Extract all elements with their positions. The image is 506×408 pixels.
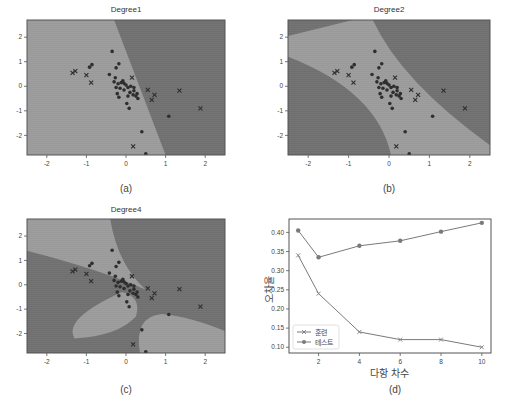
y-axis-label: 오차율 [261,270,276,310]
caption: (d) [375,384,415,395]
x-tick-label: 6 [398,358,402,365]
y-tick-label: 0.10 [271,343,284,350]
x-tick-label: 2 [317,358,321,365]
y-tick-label: 0.40 [271,229,284,236]
legend-label: 테스트 [315,339,334,347]
y-tick-label: 0.35 [271,248,284,255]
x-tick-label: 4 [358,358,362,365]
legend: 훈련테스트 [293,325,339,349]
y-tick-label: 0.15 [271,324,284,331]
x-axis-label: 다항 차수 [370,365,409,380]
x-tick-label: 10 [478,358,486,365]
legend-label: 훈련 [315,328,327,337]
x-tick-label: 8 [439,358,443,365]
line-chart-error-rate: 2468100.400.350.300.250.200.150.10훈련테스트 [0,0,506,408]
